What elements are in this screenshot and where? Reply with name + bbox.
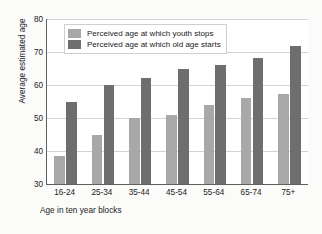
bar[interactable] [178, 69, 189, 185]
y-tick-label: 60 [34, 81, 43, 90]
bar[interactable] [129, 118, 140, 184]
bar[interactable] [253, 58, 264, 184]
legend-label: Perceived age at which youth stops [87, 29, 214, 38]
bar[interactable] [204, 105, 215, 184]
y-tick-label: 40 [34, 147, 43, 156]
chart-legend: Perceived age at which youth stopsPercei… [64, 24, 227, 54]
y-tick-label: 70 [34, 48, 43, 57]
chart-figure: Average estimated age Age in ten year bl… [0, 0, 322, 234]
bar-group [233, 19, 270, 184]
bar[interactable] [141, 78, 152, 184]
bar[interactable] [290, 46, 301, 184]
bar[interactable] [92, 135, 103, 185]
x-axis-title: Age in ten year blocks [40, 206, 122, 215]
x-tick-label: 75+ [281, 188, 295, 197]
y-tick-label: 30 [34, 180, 43, 189]
bar[interactable] [166, 115, 177, 184]
bar-group [271, 19, 308, 184]
legend-swatch [68, 29, 81, 38]
y-tick-label: 50 [34, 114, 43, 123]
x-tick-label: 16-24 [54, 188, 75, 197]
legend-item[interactable]: Perceived age at which old age starts [68, 39, 221, 50]
x-tick-label: 55-64 [203, 188, 224, 197]
bar[interactable] [278, 94, 289, 184]
x-tick-label: 35-44 [129, 188, 150, 197]
bar[interactable] [215, 65, 226, 184]
y-axis-title: Average estimated age [16, 0, 30, 131]
legend-swatch [68, 40, 81, 49]
bar[interactable] [66, 102, 77, 185]
x-tick-label: 45-54 [166, 188, 187, 197]
x-tick-label: 65-74 [241, 188, 262, 197]
y-tick-label: 80 [34, 15, 43, 24]
bar[interactable] [54, 156, 65, 184]
x-tick-label: 25-34 [91, 188, 112, 197]
bar[interactable] [104, 85, 115, 184]
legend-item[interactable]: Perceived age at which youth stops [68, 28, 221, 39]
legend-label: Perceived age at which old age starts [87, 40, 221, 49]
bar[interactable] [241, 98, 252, 184]
